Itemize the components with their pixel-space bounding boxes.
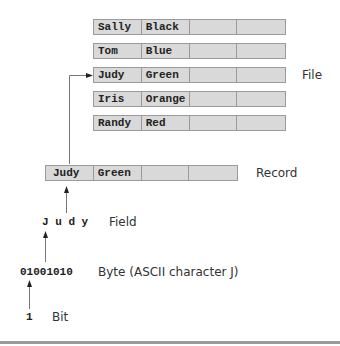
arrowhead-icon [43,231,48,238]
arrowhead-icon [64,186,69,193]
connector-arrows [0,0,340,346]
record-to-file-arrow-line [70,76,89,165]
arrowhead-icon [86,73,93,78]
arrowhead-icon [27,280,32,287]
divider [0,341,340,344]
